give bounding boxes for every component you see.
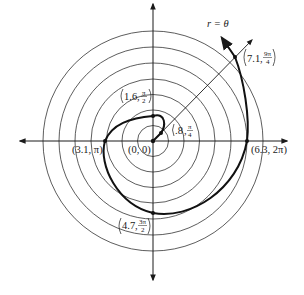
svg-text:,: , [184,125,187,136]
point-pi-2 [151,114,155,118]
svg-text:,: , [260,53,263,64]
svg-text:4: 4 [188,131,192,139]
point-9pi-4 [233,55,237,59]
ray-pi-over-4 [153,40,252,141]
label-point-9pi-4: 7.1 , 9π 4 [244,49,275,66]
point-pi [103,139,107,143]
point-2pi [245,139,249,143]
equation-label: r = θ [207,18,229,29]
label-origin: (0, 0) [128,144,151,156]
svg-text:1.6: 1.6 [124,91,137,102]
label-point-2pi: (6.3, 2π) [251,144,287,156]
label-point-pi-4: .8 , π 4 [173,123,194,139]
polar-spiral-diagram: r = θ (0, 0) .8 , π 4 1.6 , π 2 (3.1, π)… [0,0,304,295]
point-3pi-2 [151,211,155,215]
svg-text:9π: 9π [264,50,272,58]
svg-text:2: 2 [141,226,145,234]
svg-text:π: π [188,123,192,131]
svg-text:,: , [137,91,140,102]
label-point-3pi-2: 4.7 , 3π 2 [119,218,150,234]
svg-text:,: , [135,220,138,231]
label-point-pi-2: 1.6 , π 2 [121,89,151,105]
label-point-pi: (3.1, π) [72,144,103,156]
point-origin [151,139,155,143]
svg-text:3π: 3π [139,218,147,226]
svg-text:π: π [142,89,146,97]
svg-text:7.1: 7.1 [247,53,260,64]
point-pi-4 [159,131,163,135]
svg-text:.8: .8 [175,125,183,136]
svg-text:2: 2 [142,97,146,105]
svg-text:4.7: 4.7 [122,220,135,231]
svg-text:4: 4 [266,58,270,66]
